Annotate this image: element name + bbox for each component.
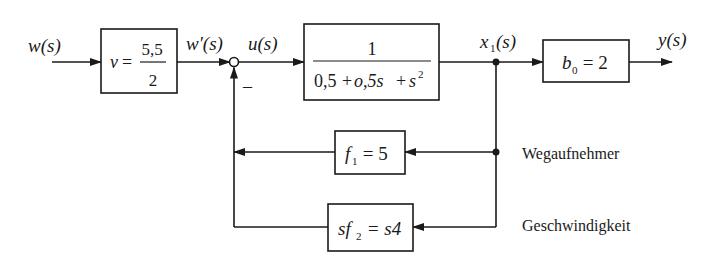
input-label: w(s): [28, 35, 61, 57]
svg-text:+: +: [342, 71, 352, 91]
prefilter-eq: =: [122, 52, 132, 72]
svg-text:2: 2: [418, 68, 424, 80]
svg-text:o,5s: o,5s: [354, 71, 384, 91]
control-label: u(s): [248, 33, 278, 55]
summing-junction: [230, 58, 239, 67]
svg-text:x: x: [479, 31, 489, 52]
state-label: x 1 (s): [479, 31, 516, 54]
prefilter-numerator: 5,5: [141, 40, 162, 59]
velocity-feedback-sub: 2: [356, 230, 362, 242]
prefiltered-label: w′(s): [186, 33, 223, 55]
prefilter-denominator: 2: [149, 71, 158, 90]
output-gain-value: = 2: [578, 52, 608, 73]
position-sensor-label: Wegaufnehmer: [522, 145, 620, 163]
svg-text:+: +: [396, 71, 406, 91]
svg-text:1: 1: [490, 42, 496, 54]
block-diagram: w(s) v = 5,5 2 w′(s) – u(s) 1 0,5 + o,5s…: [0, 0, 719, 265]
svg-text:s: s: [409, 71, 416, 91]
velocity-feedback-value: = s4: [362, 218, 402, 239]
output-label: y(s): [656, 29, 686, 51]
prefilter-lhs: v: [110, 52, 118, 72]
summing-minus-sign: –: [242, 76, 253, 96]
svg-text:0,5: 0,5: [314, 71, 337, 91]
position-feedback-sub: 1: [352, 155, 358, 167]
output-gain-symbol: b: [562, 52, 572, 73]
velocity-sensor-label: Geschwindigkeit: [522, 217, 631, 235]
plant-numerator: 1: [368, 39, 377, 59]
position-feedback-value: = 5: [358, 143, 388, 164]
svg-text:(s): (s): [496, 31, 516, 53]
